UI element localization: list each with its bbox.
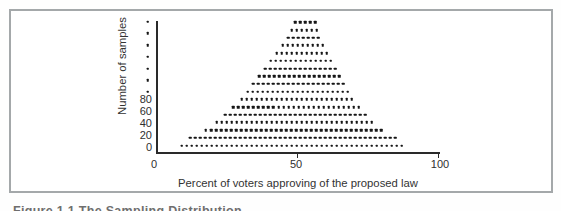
data-dot [293, 75, 296, 78]
data-dot [229, 137, 232, 140]
data-dot [239, 113, 242, 116]
data-dot [194, 137, 197, 140]
data-dot [306, 98, 309, 101]
data-dot [322, 83, 325, 86]
data-dot [283, 75, 286, 78]
data-dot [306, 121, 309, 124]
data-dot [249, 113, 252, 116]
data-dot [351, 98, 354, 101]
data-dot [239, 137, 242, 140]
data-dot [371, 144, 374, 147]
data-dot [305, 60, 308, 63]
data-dot [294, 137, 297, 140]
y-axis-line [156, 21, 158, 154]
data-dot [229, 113, 232, 116]
data-dot [375, 129, 378, 132]
data-dot [295, 129, 298, 132]
data-dot [331, 121, 334, 124]
data-dot [241, 144, 244, 147]
data-dot [315, 129, 318, 132]
data-dot [241, 98, 244, 101]
data-dot [341, 98, 344, 101]
data-dot [266, 144, 269, 147]
data-dot [251, 98, 254, 101]
data-dot [297, 106, 300, 109]
data-dot [357, 106, 360, 109]
data-dot [230, 129, 233, 132]
data-dot [352, 106, 355, 109]
data-dot [286, 98, 289, 101]
data-dot [246, 121, 249, 124]
data-dot [346, 144, 349, 147]
data-dot [360, 129, 363, 132]
data-dot [291, 29, 294, 32]
data-dot [346, 98, 349, 101]
data-dot [304, 113, 307, 116]
data-dot [324, 67, 327, 70]
y-tick-label: 40 [126, 117, 152, 129]
data-dot [301, 44, 304, 47]
data-dot [261, 90, 264, 93]
data-dot [321, 144, 324, 147]
data-dot [311, 98, 314, 101]
data-dot [337, 106, 340, 109]
data-dot [346, 121, 349, 124]
data-dot [341, 144, 344, 147]
data-dot [307, 106, 310, 109]
data-dot [380, 129, 383, 132]
data-dot [289, 137, 292, 140]
data-dot [366, 121, 369, 124]
data-dot [311, 121, 314, 124]
data-dot [321, 90, 324, 93]
data-dot [311, 44, 314, 47]
data-dot [297, 36, 300, 39]
y-tick-label: 60 [126, 105, 152, 117]
data-dot [266, 90, 269, 93]
data-dot [309, 113, 312, 116]
data-dot [269, 113, 272, 116]
data-dot [326, 121, 329, 124]
data-dot [391, 144, 394, 147]
data-dot [206, 144, 209, 147]
data-dot [251, 90, 254, 93]
data-dot [292, 83, 295, 86]
y-axis-continuation-dot [146, 79, 149, 82]
data-dot [349, 113, 352, 116]
data-dot [365, 129, 368, 132]
data-dot [215, 129, 218, 132]
data-dot [284, 67, 287, 70]
data-dot [364, 113, 367, 116]
data-dot [312, 106, 315, 109]
data-dot [272, 106, 275, 109]
data-dot [310, 129, 313, 132]
data-dot [242, 106, 245, 109]
y-tick-label: 20 [126, 129, 152, 141]
data-dot [317, 36, 320, 39]
data-dot [359, 137, 362, 140]
y-axis-continuation-dot [146, 91, 149, 94]
data-dot [282, 106, 285, 109]
data-dot [232, 106, 235, 109]
data-dot [336, 90, 339, 93]
data-dot [279, 67, 282, 70]
data-dot [371, 121, 374, 124]
data-dot [321, 44, 324, 47]
data-dot [336, 144, 339, 147]
data-dot [286, 121, 289, 124]
data-dot [280, 129, 283, 132]
data-dot [287, 36, 290, 39]
data-dot [268, 75, 271, 78]
data-dot [376, 144, 379, 147]
data-dot [304, 67, 307, 70]
data-dot [337, 83, 340, 86]
data-dot [274, 67, 277, 70]
data-dot [236, 121, 239, 124]
data-dot [246, 98, 249, 101]
data-dot [246, 90, 249, 93]
data-dot [328, 75, 331, 78]
data-dot [252, 83, 255, 86]
data-dot [339, 113, 342, 116]
data-dot [276, 52, 279, 55]
data-dot [257, 106, 260, 109]
data-dot [196, 144, 199, 147]
